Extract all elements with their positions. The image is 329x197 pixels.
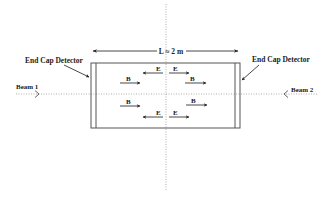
- left-detector-label: End Cap Detector: [25, 56, 84, 65]
- detector-box: [91, 63, 240, 128]
- e-field-label-top-left: E: [156, 65, 161, 73]
- b-field-label-lower-right: B: [191, 97, 196, 105]
- left-detector-pointer: [64, 65, 89, 77]
- beam2-label: Beam 2: [291, 86, 314, 94]
- b-field-label-upper-left: B: [126, 75, 131, 83]
- dimension-label: L ≈ 2 m: [159, 47, 184, 56]
- b-field-label-upper-right: B: [190, 75, 195, 83]
- e-field-label-top-right: E: [173, 65, 178, 73]
- detector-diagram: L ≈ 2 m End Cap Detector End Cap Detecto…: [0, 0, 329, 197]
- e-field-label-bottom-left: E: [156, 109, 161, 117]
- right-detector-pointer: [242, 65, 259, 80]
- beam1-label: Beam 1: [16, 83, 39, 91]
- b-field-label-lower-left: B: [126, 98, 131, 106]
- e-field-label-bottom-right: E: [173, 109, 178, 117]
- right-detector-label: End Cap Detector: [252, 55, 311, 64]
